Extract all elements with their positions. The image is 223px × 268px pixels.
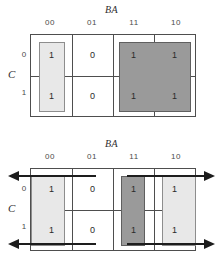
wrap-arrow-top — [0, 175, 223, 177]
side-variable-label: C — [8, 68, 15, 80]
cell-r1-c00: 1 — [31, 76, 72, 117]
column-header-00: 00 — [30, 18, 70, 27]
top-variable-label: BA — [0, 138, 223, 149]
kmap-bottom: BA 00 01 11 10 C 0 1 1 0 1 1 1 0 1 1 — [0, 134, 223, 268]
cell-r0-c10: 1 — [154, 35, 195, 76]
column-header-11: 11 — [114, 18, 154, 27]
column-header-00: 00 — [30, 152, 70, 161]
column-header-01: 01 — [72, 18, 112, 27]
arrow-shaft-left — [18, 243, 96, 245]
cell-r1-c11: 1 — [113, 76, 154, 117]
column-header-10: 10 — [156, 152, 196, 161]
kmap-grid: 1 0 1 1 1 0 1 1 — [30, 168, 196, 251]
column-header-01: 01 — [72, 152, 112, 161]
arrow-head-right-icon — [204, 239, 215, 249]
arrow-shaft-left — [18, 175, 96, 177]
arrow-shaft-right — [127, 243, 205, 245]
arrow-shaft-right — [127, 175, 205, 177]
cell-r0-c01: 0 — [72, 35, 113, 76]
row-header-1: 1 — [19, 88, 29, 97]
column-header-11: 11 — [114, 152, 154, 161]
cell-r0-c00: 1 — [31, 35, 72, 76]
column-header-row: 00 01 11 10 — [30, 18, 196, 32]
row-header-0: 0 — [19, 184, 29, 193]
column-header-row: 00 01 11 10 — [30, 152, 196, 166]
wrap-arrow-bottom — [0, 243, 223, 245]
side-variable-label: C — [8, 202, 15, 214]
row-header-1: 1 — [19, 222, 29, 231]
cell-r1-c10: 1 — [154, 76, 195, 117]
top-variable-label: BA — [0, 4, 223, 15]
kmap-top: BA 00 01 11 10 C 0 1 1 0 1 1 1 0 1 1 — [0, 0, 223, 134]
cell-r1-c01: 0 — [72, 76, 113, 117]
row-header-0: 0 — [19, 50, 29, 59]
kmap-grid: 1 0 1 1 1 0 1 1 — [30, 34, 196, 117]
cell-r0-c11: 1 — [113, 35, 154, 76]
column-header-10: 10 — [156, 18, 196, 27]
arrow-head-right-icon — [204, 171, 215, 181]
